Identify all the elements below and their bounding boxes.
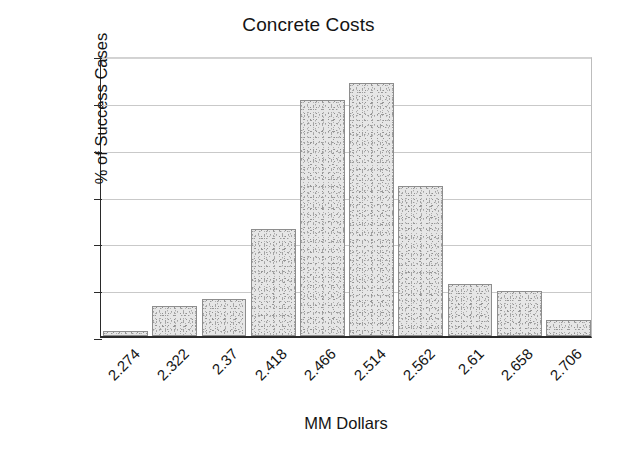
x-axis-label-2.274: 2.274 [94,345,143,394]
bar-2.466 [300,100,345,336]
gridline-20 [101,152,591,153]
bar-2.658 [497,291,542,336]
y-axis-tick-10 [94,245,102,246]
x-axis-label-2.418: 2.418 [241,345,290,394]
plot-area: % of Success Cases 051015202530 [100,57,592,338]
x-axis-label-2.706: 2.706 [537,345,586,394]
x-axis-label-2.61: 2.61 [438,345,487,394]
y-axis-tick-0 [94,339,102,340]
gridline-25 [101,105,591,106]
y-axis-tick-30 [94,58,102,59]
bar-2.37 [202,299,247,336]
x-axis-label-2.562: 2.562 [389,345,438,394]
bar-2.418 [251,229,296,336]
gridline-15 [101,199,591,200]
y-axis-tick-5 [94,292,102,293]
y-axis-tick-25 [94,105,102,106]
bar-2.706 [546,320,591,336]
x-axis-label-2.466: 2.466 [291,345,340,394]
bar-2.322 [152,306,197,336]
x-axis-label-2.37: 2.37 [192,345,241,394]
gridline-10 [101,245,591,246]
bar-2.514 [349,83,394,336]
bar-2.562 [398,186,443,336]
y-axis-tick-20 [94,152,102,153]
bar-2.274 [103,331,148,336]
x-axis-label-2.514: 2.514 [340,345,389,394]
y-axis-title: % of Success Cases [92,0,111,254]
x-axis-title: MM Dollars [100,414,592,433]
x-axis-label-2.658: 2.658 [487,345,536,394]
chart-figure: Concrete Costs % of Success Cases 051015… [0,0,617,453]
gridline-30 [101,58,591,59]
bar-2.61 [448,284,493,336]
y-axis-tick-15 [94,199,102,200]
x-axis-label-2.322: 2.322 [143,345,192,394]
